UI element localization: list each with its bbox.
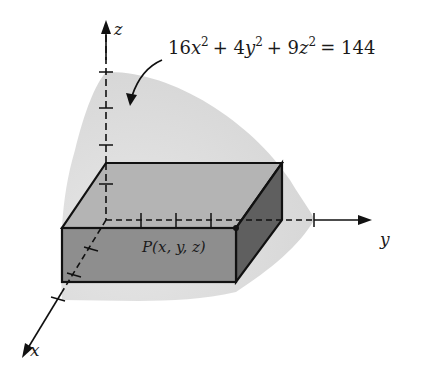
diagram-canvas: z y x P(x, y, z) 16x2+ 4y2+ 9z2= 144 — [0, 0, 422, 370]
point-label: P(x, y, z) — [141, 238, 206, 256]
point-p-marker — [233, 225, 239, 231]
y-axis-label: y — [379, 229, 390, 249]
z-arrow-icon — [101, 20, 111, 34]
z-axis-label: z — [113, 20, 123, 39]
x-axis-label: x — [30, 340, 40, 360]
ellipsoid-equation: 16x2+ 4y2+ 9z2= 144 — [168, 35, 375, 58]
y-arrow-icon — [358, 215, 372, 225]
